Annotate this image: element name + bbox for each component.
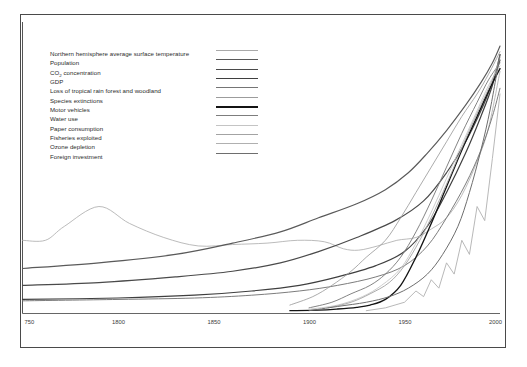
x-axis-tick-label: 2000 [489,319,502,325]
x-axis-tick-label: 1950 [399,319,412,325]
legend-item[interactable]: Foreign investment [50,149,265,158]
chart-legend: Northern hemisphere average surface temp… [50,46,265,158]
x-axis-tick-label: 1900 [303,319,316,325]
legend-item[interactable]: GDP [50,74,265,83]
x-axis-tick-label: 1850 [208,319,221,325]
legend-item[interactable]: Population [50,55,265,64]
x-axis-tick-label: 1800 [112,319,125,325]
legend-item[interactable]: Loss of tropical rain forest and woodlan… [50,83,265,92]
legend-item[interactable]: CO2 concentration [50,65,265,74]
x-axis-tick-label: 750 [25,319,35,325]
great-acceleration-figure: Northern hemisphere average surface temp… [0,0,527,367]
legend-item[interactable]: Motor vehicles [50,102,265,111]
legend-item-label: Foreign investment [50,152,103,161]
legend-item[interactable]: Water use [50,111,265,120]
legend-item[interactable]: Species extinctions [50,93,265,102]
legend-item[interactable]: Ozone depletion [50,139,265,148]
legend-item[interactable]: Paper consumption [50,121,265,130]
legend-item[interactable]: Fisheries exploited [50,130,265,139]
legend-item[interactable]: Northern hemisphere average surface temp… [50,46,265,55]
